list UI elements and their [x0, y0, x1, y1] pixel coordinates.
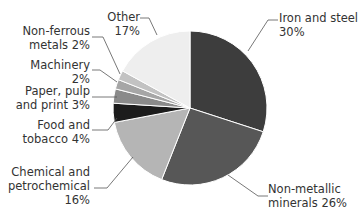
leader-nonmetallic — [228, 175, 268, 196]
label-paper-pulp-print: Paper, pulp and print 3% — [16, 84, 90, 112]
label-food-and-tobacco: Food and tobacco 4% — [23, 118, 90, 146]
label-value: 30% — [279, 25, 358, 39]
label-text: petrochemical — [8, 179, 90, 193]
leader-iron — [248, 20, 278, 51]
label-text: Non-metallic — [268, 182, 347, 196]
label-text: Machinery — [30, 58, 90, 72]
label-text: Food and — [23, 118, 90, 132]
label-value: metals 2% — [22, 38, 90, 52]
label-value: 17% — [107, 24, 140, 38]
label-value: minerals 26% — [268, 196, 347, 210]
leader-chemical — [94, 157, 133, 188]
label-text: Iron and steel — [279, 11, 358, 25]
label-value: 16% — [8, 193, 90, 207]
label-machinery: Machinery 2% — [30, 58, 90, 86]
label-text: Other — [107, 10, 140, 24]
label-value: and print 3% — [16, 98, 90, 112]
leader-machinery — [92, 70, 117, 82]
leader-nonferrous — [92, 37, 120, 74]
label-chemical-and-petrochemical: Chemical and petrochemical 16% — [8, 165, 90, 207]
label-value: 2% — [30, 72, 90, 86]
label-text: Chemical and — [8, 165, 90, 179]
label-non-ferrous-metals: Non-ferrous metals 2% — [22, 24, 90, 52]
leader-other — [140, 18, 157, 35]
label-text: Non-ferrous — [22, 24, 90, 38]
label-iron-and-steel: Iron and steel 30% — [279, 11, 358, 39]
leader-food — [92, 118, 117, 130]
label-text: Paper, pulp — [16, 84, 90, 98]
label-other: Other 17% — [107, 10, 140, 38]
label-value: tobacco 4% — [23, 132, 90, 146]
label-non-metallic-minerals: Non-metallic minerals 26% — [268, 182, 347, 210]
